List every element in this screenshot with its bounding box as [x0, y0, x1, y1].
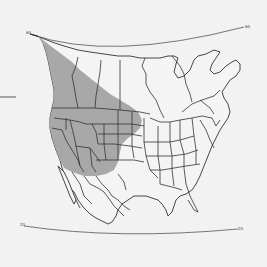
- parallel-label-60-right: 60: [245, 24, 250, 29]
- parallel-label-60-left: 60: [26, 30, 31, 35]
- parallel-label-20-left: 20: [20, 222, 25, 227]
- parallel-60-line: [30, 27, 244, 46]
- range-map: 60 60 20 20: [0, 0, 267, 267]
- parallel-label-20-right: 20: [238, 226, 243, 231]
- north-america-map-svg: [0, 0, 267, 267]
- parallel-20-line: [24, 226, 238, 234]
